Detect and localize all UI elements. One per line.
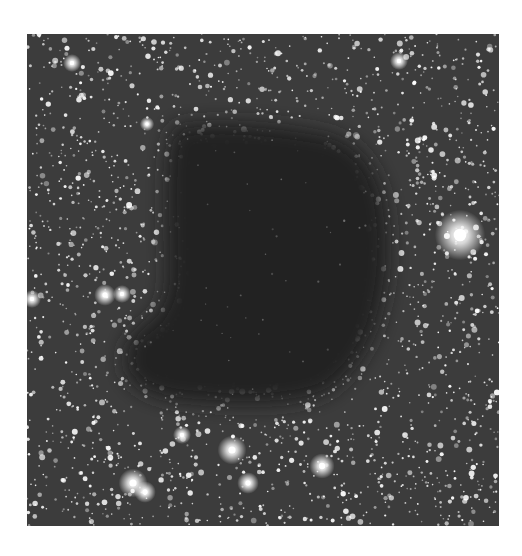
star [169,459,171,461]
star [108,122,110,124]
star [463,491,465,493]
star [147,98,151,102]
star [365,82,367,84]
star [49,200,51,202]
star [495,228,497,230]
star [343,483,345,485]
star [420,74,422,76]
star [222,430,224,432]
star [42,474,44,476]
star [120,75,122,77]
star [323,394,325,396]
star [29,503,32,506]
star [158,129,161,132]
faint-star [281,395,282,396]
star [440,515,442,517]
star [409,267,411,269]
star [29,220,31,222]
star [439,420,441,422]
star [129,385,131,387]
star [117,117,119,119]
star [79,265,81,267]
star [41,182,43,184]
star [474,181,476,183]
star [218,483,221,486]
star [106,199,109,202]
star [242,38,245,41]
star [82,217,84,219]
star [59,409,61,411]
star [496,446,498,448]
star [100,236,102,238]
star [97,503,100,506]
star [280,456,283,459]
star [415,219,418,222]
star [443,65,447,69]
star [346,378,349,381]
star [158,477,163,482]
star [353,439,355,441]
star [161,61,164,64]
star [287,403,289,405]
star [151,46,155,50]
star [263,512,266,515]
star [337,496,339,498]
star [416,325,418,327]
star [377,139,382,144]
star [227,73,229,75]
star [38,186,40,188]
star [462,321,465,324]
star [206,94,208,96]
star [70,233,72,235]
star [28,358,30,360]
star [349,447,353,451]
star [471,420,473,422]
star [428,402,430,404]
star [161,225,164,228]
star [103,341,105,343]
star [354,494,358,498]
star [410,424,412,426]
star [83,295,85,297]
star [77,187,80,190]
star [39,454,45,460]
star [132,432,135,435]
star [52,63,57,68]
star [350,513,356,519]
star [107,83,109,85]
star [346,92,348,94]
star [132,322,135,325]
star [97,227,99,229]
star [448,500,452,504]
star [131,196,133,198]
star [166,409,168,411]
star [49,229,51,231]
star [485,407,488,410]
star [419,187,421,189]
star [293,426,298,431]
star [35,115,37,117]
star [184,512,188,516]
star [60,64,62,66]
star [377,73,380,76]
star [466,399,469,402]
star [433,269,435,271]
star [84,238,88,242]
star [423,67,426,70]
star [46,431,48,433]
star [307,437,310,440]
star [411,159,416,164]
star [488,399,492,403]
star [427,290,430,293]
star [62,38,67,43]
star [450,399,453,402]
star [399,250,405,256]
star [317,495,320,498]
star [307,517,309,519]
star [51,155,53,157]
star [60,441,62,443]
star [167,495,172,500]
star [491,232,495,236]
star [85,508,89,512]
star [198,85,203,90]
